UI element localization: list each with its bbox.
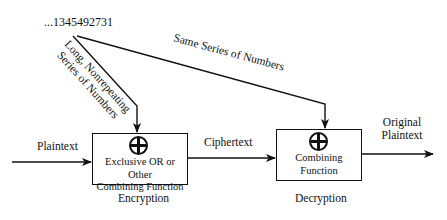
key-stream-label: ...1345492731 (44, 16, 113, 29)
plaintext-label: Plaintext (37, 140, 78, 153)
decrypt-text-1: Combining (277, 152, 361, 165)
ciphertext-label: Ciphertext (204, 136, 253, 149)
xor-icon (129, 136, 148, 155)
original-line-2: Plaintext (367, 129, 437, 142)
xor-icon (309, 132, 328, 151)
original-line-1: Original (367, 116, 437, 129)
encryption-caption: Encryption (118, 192, 169, 205)
decryption-caption: Decryption (295, 192, 347, 205)
decryption-box: Combining Function (276, 129, 362, 181)
encrypt-text-1: Exclusive OR or Other (93, 156, 187, 181)
encryption-box: Exclusive OR or Other Combining Function (92, 133, 188, 185)
original-plaintext-label: Original Plaintext (367, 116, 437, 141)
decrypt-text-2: Function (277, 165, 361, 178)
